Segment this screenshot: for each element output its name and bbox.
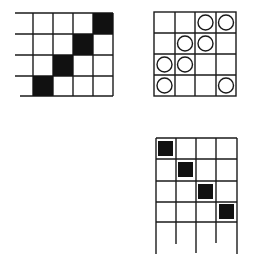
filled-cell xyxy=(93,13,113,34)
circle-icon xyxy=(198,36,213,51)
circle-icon xyxy=(219,78,234,93)
circle-icon xyxy=(198,15,213,30)
inset-square xyxy=(198,184,213,199)
circle-icon xyxy=(157,57,172,72)
inset-square xyxy=(178,162,193,177)
circle-icon xyxy=(219,15,234,30)
circle-icon xyxy=(178,57,193,72)
grid-circles xyxy=(154,12,236,96)
filled-cell xyxy=(73,34,93,55)
circle-icon xyxy=(157,78,172,93)
inset-square xyxy=(219,204,234,219)
figure-canvas xyxy=(0,0,254,254)
filled-cell xyxy=(53,55,73,76)
circle-icon xyxy=(178,36,193,51)
filled-cell xyxy=(33,76,53,96)
inset-square xyxy=(158,141,173,156)
